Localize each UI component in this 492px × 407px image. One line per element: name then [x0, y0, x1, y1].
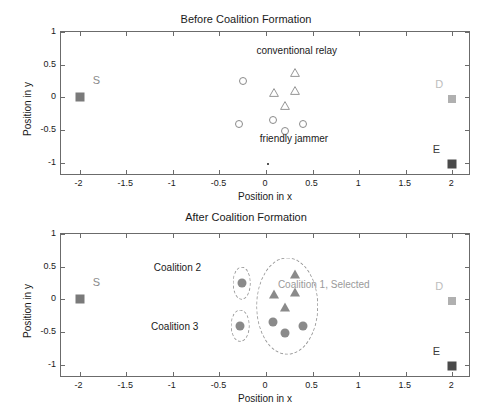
- annotation-coalition-1-selected: Coalition 1, Selected: [278, 278, 370, 289]
- y-tick: [465, 163, 469, 164]
- marker-conventional-relay: [290, 63, 300, 81]
- x-tick: [219, 372, 220, 376]
- x-tick: [452, 372, 453, 376]
- panel-before-coalition: Before Coalition Formation conventional …: [0, 0, 492, 200]
- x-tick: [219, 170, 220, 174]
- axes-bottom: Coalition 2Coalition 3Coalition 1, Selec…: [60, 233, 470, 377]
- x-tick: [406, 32, 407, 36]
- y-tick-label: -0.5: [34, 326, 56, 336]
- x-tick-label: -1: [168, 380, 176, 390]
- x-tick-label: -2: [75, 178, 83, 188]
- x-tick: [173, 170, 174, 174]
- x-tick: [219, 32, 220, 36]
- plot-title-top: Before Coalition Formation: [0, 13, 492, 25]
- x-tick: [452, 32, 453, 36]
- x-tick: [359, 170, 360, 174]
- x-tick-label: -0.5: [211, 380, 227, 390]
- y-tick: [61, 365, 65, 366]
- marker-conventional-relay: [280, 96, 290, 114]
- x-tick-label: -2: [75, 380, 83, 390]
- y-tick: [465, 332, 469, 333]
- y-tick: [61, 267, 65, 268]
- plot-area-top: conventional relayfriendly jammerSDE: [61, 32, 469, 174]
- marker-source-node: [75, 295, 84, 304]
- marker-friendly-jammer: [235, 120, 243, 128]
- marker-jammer: [299, 322, 308, 331]
- x-tick: [266, 32, 267, 36]
- marker-conventional-relay: [269, 83, 279, 101]
- x-tick: [173, 372, 174, 376]
- axes-top: conventional relayfriendly jammerSDE: [60, 31, 470, 175]
- annotation-s: S: [93, 276, 100, 288]
- marker-jammer: [237, 279, 246, 288]
- x-tick-label: 0.5: [305, 178, 318, 188]
- y-tick: [61, 32, 65, 33]
- y-tick: [61, 163, 65, 164]
- y-tick-label: 0: [34, 91, 56, 101]
- y-tick: [61, 130, 65, 131]
- x-tick-label: 1.5: [399, 178, 412, 188]
- marker-friendly-jammer: [299, 120, 307, 128]
- x-tick: [80, 234, 81, 238]
- marker-destination-node: [448, 95, 456, 103]
- marker-friendly-jammer: [239, 77, 247, 85]
- x-tick: [80, 170, 81, 174]
- x-tick: [126, 170, 127, 174]
- x-tick-label: 1: [356, 380, 361, 390]
- x-tick-label: -1.5: [117, 178, 133, 188]
- x-tick: [313, 32, 314, 36]
- y-tick-label: 0: [34, 293, 56, 303]
- marker-friendly-jammer: [269, 116, 277, 124]
- y-tick: [61, 332, 65, 333]
- marker-jammer: [235, 322, 244, 331]
- annotation-d: D: [435, 280, 443, 292]
- x-tick-label: 2: [449, 380, 454, 390]
- y-tick: [465, 365, 469, 366]
- marker-conventional-relay: [290, 81, 300, 99]
- annotation-conventional-relay: conventional relay: [256, 45, 337, 56]
- y-tick: [465, 299, 469, 300]
- x-tick: [80, 372, 81, 376]
- y-axis-label-bottom: Position in y: [22, 284, 33, 338]
- plot-title-bottom: After Coalition Formation: [0, 211, 492, 223]
- x-tick-label: 2: [449, 178, 454, 188]
- marker-jammer: [280, 328, 289, 337]
- x-tick: [126, 234, 127, 238]
- x-tick: [313, 234, 314, 238]
- y-tick-label: -1: [34, 359, 56, 369]
- y-tick: [61, 234, 65, 235]
- y-tick-label: -0.5: [34, 124, 56, 134]
- x-tick-label: 0.5: [305, 380, 318, 390]
- y-tick: [465, 130, 469, 131]
- x-axis-label-bottom: Position in x: [60, 393, 470, 404]
- marker-eavesdropper-node: [448, 362, 457, 371]
- x-tick-label: 0: [262, 380, 267, 390]
- x-tick: [452, 234, 453, 238]
- x-tick: [406, 234, 407, 238]
- x-tick: [313, 372, 314, 376]
- y-tick: [465, 65, 469, 66]
- plot-area-bottom: Coalition 2Coalition 3Coalition 1, Selec…: [61, 234, 469, 376]
- annotation-d: D: [435, 78, 443, 90]
- figure-coalition-formation: Before Coalition Formation conventional …: [0, 0, 492, 407]
- annotation-friendly-jammer: friendly jammer: [260, 133, 328, 144]
- x-tick: [359, 372, 360, 376]
- y-tick: [61, 299, 65, 300]
- x-tick-label: 0: [262, 178, 267, 188]
- panel-after-coalition: After Coalition Formation Coalition 2Coa…: [0, 195, 492, 407]
- y-tick-label: 0.5: [34, 261, 56, 271]
- annotation-coalition-3: Coalition 3: [151, 320, 198, 331]
- y-axis-label-top: Position in y: [22, 82, 33, 136]
- y-tick-label: 0.5: [34, 59, 56, 69]
- y-tick: [465, 32, 469, 33]
- x-tick-label: -1.5: [117, 380, 133, 390]
- x-tick: [173, 32, 174, 36]
- marker-stray-point: [267, 163, 269, 165]
- marker-source-node: [75, 93, 84, 102]
- y-tick-label: 1: [34, 26, 56, 36]
- x-tick: [266, 170, 267, 174]
- x-tick-label: 1: [356, 178, 361, 188]
- x-tick: [359, 32, 360, 36]
- x-tick: [406, 170, 407, 174]
- x-tick: [313, 170, 314, 174]
